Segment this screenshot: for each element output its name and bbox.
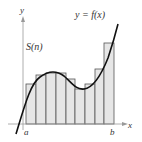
y-axis-arrow-icon [21, 16, 25, 22]
right-bound-label: b [110, 127, 115, 137]
rectangle-2 [36, 75, 46, 124]
upper-sum-rectangles [26, 43, 114, 124]
rectangle-6 [75, 89, 85, 124]
riemann-sum-diagram: y x y = f(x) S(n) a b [0, 0, 142, 142]
y-axis-label: y [19, 5, 24, 15]
rectangle-7 [85, 84, 95, 124]
rectangle-4 [56, 73, 66, 124]
x-axis-label: x [127, 120, 132, 130]
sum-label: S(n) [26, 41, 43, 53]
function-label: y = f(x) [74, 9, 106, 21]
rectangle-3 [46, 73, 56, 124]
left-bound-label: a [24, 127, 29, 137]
rectangle-8 [95, 69, 104, 124]
